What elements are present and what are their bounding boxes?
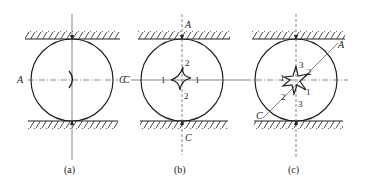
caption-b: (b) [174, 164, 186, 176]
axis-label-bottom: C [185, 132, 192, 143]
axis-label-left: A [16, 74, 24, 85]
point-label-top: 2 [185, 58, 190, 68]
axis-label-top: A [184, 19, 192, 30]
point-label-bottom: 2 [184, 91, 189, 101]
point-label-left: 1 [280, 73, 285, 83]
four-point-star-crack [171, 67, 191, 90]
point-label-top: 3 [299, 60, 304, 70]
point-label-bottom: 3 [298, 99, 303, 109]
point-label-upper-right: 2 [307, 67, 312, 77]
caption-a: (a) [64, 164, 75, 176]
panel-b: C A C 2 1 1 2 (b) [123, 14, 245, 176]
crack-propagation-figure: A C (a) C A C 2 1 1 2 (b) [0, 0, 366, 190]
axis-label-diag-top: A [337, 39, 345, 50]
axis-label-diag-bottom: C [256, 110, 263, 121]
panel-a: A C (a) [16, 14, 126, 176]
caption-c: (c) [288, 164, 299, 176]
top-plate [252, 31, 345, 39]
panel-c: A C 3 2 1 1 2 3 (c) [245, 14, 348, 176]
axis-label-left: C [123, 74, 130, 85]
bottom-plate [254, 121, 343, 129]
point-label-lower-left: 2 [281, 92, 286, 102]
point-label-left: 1 [161, 75, 166, 85]
point-label-lower-right: 1 [306, 87, 311, 97]
point-label-right: 1 [195, 75, 200, 85]
